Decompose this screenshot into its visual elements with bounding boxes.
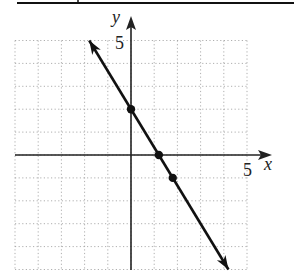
data-point: [127, 105, 135, 113]
y-tick-label: 5: [115, 33, 124, 53]
x-tick-label: 5: [243, 160, 252, 180]
data-point: [155, 151, 163, 159]
y-axis-label: y: [110, 7, 120, 27]
x-axis-label: x: [263, 154, 272, 174]
line-arrow-icon: [217, 255, 229, 270]
line-arrow-icon: [89, 41, 101, 56]
coordinate-plane: y 5 x 5: [0, 0, 294, 272]
data-point: [169, 174, 177, 182]
